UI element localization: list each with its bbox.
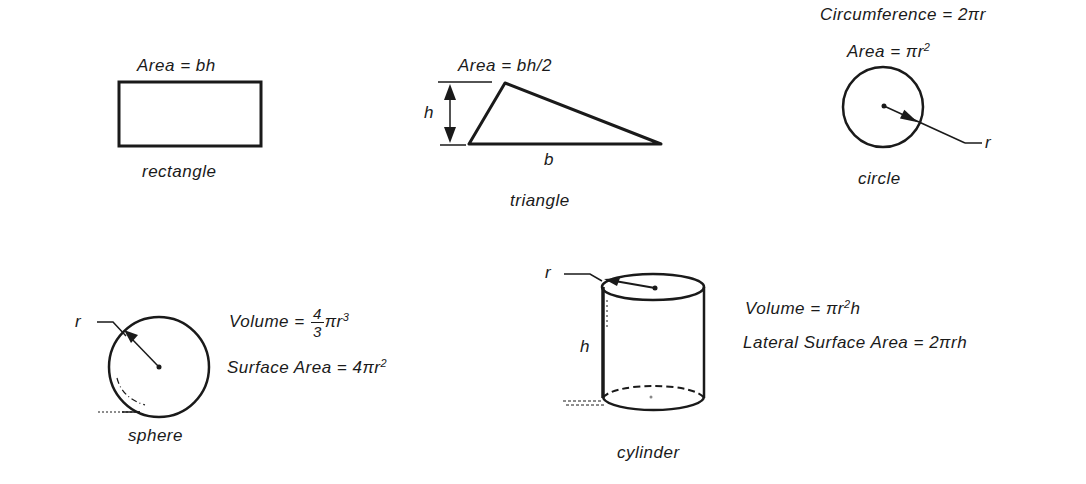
sphere-shape	[97, 317, 209, 417]
sphere-surface-exponent: 2	[380, 357, 387, 369]
triangle-caption: triangle	[510, 192, 570, 209]
cylinder-height-label: h	[580, 338, 590, 355]
height-arrow-icon	[444, 84, 456, 143]
triangle-height-label: h	[424, 104, 434, 121]
rectangle-formula: Area = bh	[137, 57, 216, 74]
cylinder-volume-exponent: 2	[844, 298, 851, 310]
triangle-shape	[438, 82, 661, 145]
sphere-volume-exponent: 3	[343, 311, 350, 323]
triangle-formula: Area = bh/2	[458, 57, 552, 74]
fraction-numerator: 4	[311, 306, 324, 323]
cylinder-lateral-formula: Lateral Surface Area = 2πrh	[743, 334, 967, 351]
circle-circumference-formula: Circumference = 2πr	[820, 6, 986, 23]
sphere-radius-label: r	[75, 313, 81, 330]
cylinder-radius-label: r	[545, 264, 551, 281]
cylinder-volume-formula: Volume = πr2h	[745, 299, 861, 317]
cylinder-caption: cylinder	[617, 444, 680, 461]
sphere-surface-text: Surface Area = 4πr	[227, 358, 380, 377]
circle-area-text: Area = πr	[847, 42, 924, 61]
circle-caption: circle	[858, 170, 901, 187]
cylinder-volume-suffix: h	[851, 299, 861, 318]
sphere-volume-suffix: πr	[325, 312, 343, 331]
triangle-base-label: b	[544, 151, 554, 168]
sphere-surface-formula: Surface Area = 4πr2	[227, 358, 387, 376]
circle-area-exponent: 2	[924, 41, 931, 53]
circle-area-formula: Area = πr2	[847, 42, 930, 60]
rectangle-caption: rectangle	[142, 163, 216, 180]
sphere-caption: sphere	[128, 427, 183, 444]
sphere-volume-fraction: 43	[311, 306, 324, 339]
sphere-volume-formula: Volume = 43πr3	[229, 306, 349, 339]
cylinder-volume-text: Volume = πr	[745, 299, 844, 318]
rectangle-shape	[119, 82, 261, 146]
circle-shape	[843, 67, 982, 147]
circle-radius-label: r	[985, 134, 991, 151]
fraction-denominator: 3	[311, 323, 324, 339]
sphere-volume-text: Volume =	[229, 312, 310, 331]
